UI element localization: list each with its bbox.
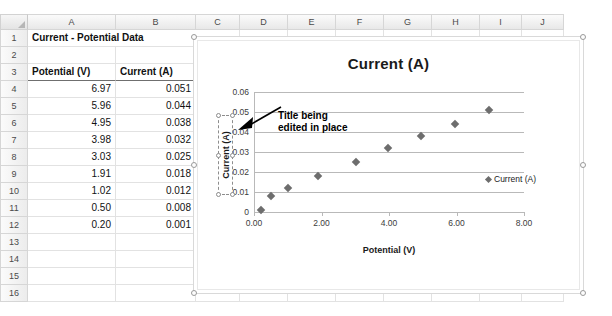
row-header-5[interactable]: 5 <box>0 98 28 115</box>
chart-handle-top-left[interactable] <box>191 34 197 40</box>
cell-B4[interactable]: 0.051 <box>116 81 196 98</box>
gridline <box>254 92 524 93</box>
row-header-14[interactable]: 14 <box>0 251 28 268</box>
column-header-b[interactable]: B <box>116 14 196 30</box>
row-header-9[interactable]: 9 <box>0 166 28 183</box>
chart-handle-bottom-right[interactable] <box>580 290 586 296</box>
cell-B12[interactable]: 0.001 <box>116 217 196 234</box>
cell-A12[interactable]: 0.20 <box>28 217 116 234</box>
column-header-h[interactable]: H <box>432 14 480 30</box>
y-axis-title-text[interactable]: Current (A) <box>221 131 231 179</box>
x-tick <box>322 212 323 216</box>
cell-B5[interactable]: 0.044 <box>116 98 196 115</box>
column-header-i[interactable]: I <box>480 14 522 30</box>
row-header-2[interactable]: 2 <box>0 47 28 64</box>
cell-B8[interactable]: 0.025 <box>116 149 196 166</box>
x-tick-label: 4.00 <box>381 218 398 228</box>
row-header-16[interactable]: 16 <box>0 285 28 302</box>
cell-A2[interactable] <box>28 47 116 64</box>
cell-A6[interactable]: 4.95 <box>28 115 116 132</box>
row-header-6[interactable]: 6 <box>0 115 28 132</box>
row-header-1[interactable]: 1 <box>0 30 28 47</box>
cell-A15[interactable] <box>28 268 116 285</box>
cell-A9[interactable]: 1.91 <box>28 166 116 183</box>
cell-A8[interactable]: 3.03 <box>28 149 116 166</box>
cell-B13[interactable] <box>116 234 196 251</box>
column-header-f[interactable]: F <box>336 14 384 30</box>
column-header-d[interactable]: D <box>240 14 288 30</box>
chart-handle-middle-left[interactable] <box>191 162 197 168</box>
row-header-4[interactable]: 4 <box>0 81 28 98</box>
chart-handle-top-center[interactable] <box>381 35 397 40</box>
select-all-corner[interactable] <box>0 14 28 30</box>
spreadsheet[interactable]: ABCDEFGHIJ 12345678910111213141516 Curre… <box>0 0 612 316</box>
row-header-7[interactable]: 7 <box>0 132 28 149</box>
row-header-12[interactable]: 12 <box>0 217 28 234</box>
cell-A10[interactable]: 1.02 <box>28 183 116 200</box>
column-header-g[interactable]: G <box>384 14 432 30</box>
select-all-triangle-icon <box>18 21 25 28</box>
y-title-handle-top-left[interactable] <box>216 113 221 118</box>
cell-B14[interactable] <box>116 251 196 268</box>
data-point[interactable] <box>451 120 459 128</box>
chart-title[interactable]: Current (A) <box>194 55 583 72</box>
cell-B9[interactable]: 0.018 <box>116 166 196 183</box>
x-tick <box>524 212 525 216</box>
cell-A16[interactable] <box>28 285 116 302</box>
row-header-3[interactable]: 3 <box>0 64 28 81</box>
cell-B2[interactable] <box>116 47 196 64</box>
cell-B15[interactable] <box>116 268 196 285</box>
legend-marker-icon <box>485 175 492 182</box>
cell-A5[interactable]: 5.96 <box>28 98 116 115</box>
data-point[interactable] <box>417 132 425 140</box>
row-header-8[interactable]: 8 <box>0 149 28 166</box>
column-header-a[interactable]: A <box>28 14 116 30</box>
x-tick <box>254 212 255 216</box>
y-title-handle-middle-left[interactable] <box>216 153 221 158</box>
y-tick-label: 0 <box>244 207 249 217</box>
row-header-13[interactable]: 13 <box>0 234 28 251</box>
cell-A13[interactable] <box>28 234 116 251</box>
chart-handle-bottom-left[interactable] <box>191 290 197 296</box>
cell-A3[interactable]: Potential (V) <box>28 64 116 81</box>
column-header-c[interactable]: C <box>196 14 240 30</box>
column-header-e[interactable]: E <box>288 14 336 30</box>
cell-A11[interactable]: 0.50 <box>28 200 116 217</box>
cell-A7[interactable]: 3.98 <box>28 132 116 149</box>
y-title-handle-bottom-right[interactable] <box>230 192 235 197</box>
data-point[interactable] <box>352 158 360 166</box>
data-point[interactable] <box>284 184 292 192</box>
row-header-10[interactable]: 10 <box>0 183 28 200</box>
chart-handle-bottom-center[interactable] <box>381 290 397 295</box>
y-title-handle-bottom-left[interactable] <box>216 192 221 197</box>
gridline <box>254 152 524 153</box>
y-title-handle-top-right[interactable] <box>230 113 235 118</box>
y-title-handle-middle-right[interactable] <box>230 153 235 158</box>
chart-handle-middle-right[interactable] <box>580 162 586 168</box>
row-header-column: 12345678910111213141516 <box>0 30 28 302</box>
column-header-j[interactable]: J <box>522 14 564 30</box>
data-point[interactable] <box>314 172 322 180</box>
y-axis-title-edit-box[interactable]: Current (A) <box>218 115 233 195</box>
cell-A1[interactable]: Current - Potential Data <box>28 30 196 47</box>
cell-B10[interactable]: 0.012 <box>116 183 196 200</box>
cell-B7[interactable]: 0.032 <box>116 132 196 149</box>
cell-B3[interactable]: Current (A) <box>116 64 196 81</box>
cell-A4[interactable]: 6.97 <box>28 81 116 98</box>
data-point[interactable] <box>384 144 392 152</box>
chart-handle-top-right[interactable] <box>580 34 586 40</box>
chart-legend[interactable]: Current (A) <box>486 174 536 184</box>
cell-B6[interactable]: 0.038 <box>116 115 196 132</box>
embedded-chart[interactable]: Current (A) 00.010.020.030.040.050.06 0.… <box>193 36 584 294</box>
cell-A14[interactable] <box>28 251 116 268</box>
x-tick <box>389 212 390 216</box>
cell-B16[interactable] <box>116 285 196 302</box>
data-point[interactable] <box>267 192 275 200</box>
cell-B11[interactable]: 0.008 <box>116 200 196 217</box>
y-tick-label: 0.06 <box>232 87 249 97</box>
row-header-15[interactable]: 15 <box>0 268 28 285</box>
row-header-11[interactable]: 11 <box>0 200 28 217</box>
x-axis-title[interactable]: Potential (V) <box>254 245 524 255</box>
x-tick-label: 0.00 <box>246 218 263 228</box>
x-tick <box>457 212 458 216</box>
